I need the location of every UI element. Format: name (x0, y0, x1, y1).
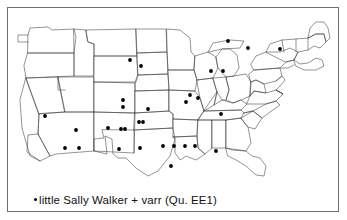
state-outlines (18, 22, 330, 176)
data-point (137, 120, 141, 124)
data-point (184, 100, 188, 104)
data-point (226, 39, 230, 43)
data-point (146, 107, 150, 111)
data-point (219, 112, 223, 116)
map-area (8, 8, 338, 212)
data-point (193, 144, 197, 148)
data-point (121, 105, 125, 109)
data-point (139, 64, 143, 68)
distribution-map-svg (8, 8, 338, 212)
data-point (128, 58, 132, 62)
data-point (119, 127, 123, 131)
figure-container: little Sally Walker + varr (Qu. EE1) (0, 0, 347, 220)
data-point (121, 98, 125, 102)
data-point (278, 47, 282, 51)
data-point (106, 126, 110, 130)
data-point (63, 146, 67, 150)
data-point (123, 127, 127, 131)
caption-text: little Sally Walker + varr (Qu. EE1) (39, 194, 217, 206)
data-point (221, 69, 225, 73)
data-point (138, 146, 142, 150)
data-point (161, 144, 165, 148)
legend-dot-icon (34, 198, 37, 201)
data-point (196, 96, 200, 100)
data-point (183, 144, 187, 148)
data-point (169, 164, 173, 168)
data-point (117, 147, 121, 151)
data-point (214, 149, 218, 153)
map-caption: little Sally Walker + varr (Qu. EE1) (34, 191, 314, 207)
data-point (209, 69, 213, 73)
data-point (246, 46, 250, 50)
data-point (172, 144, 176, 148)
data-point (77, 146, 81, 150)
data-point (74, 128, 78, 132)
data-point (141, 120, 145, 124)
data-point (188, 93, 192, 97)
data-point (43, 114, 47, 118)
